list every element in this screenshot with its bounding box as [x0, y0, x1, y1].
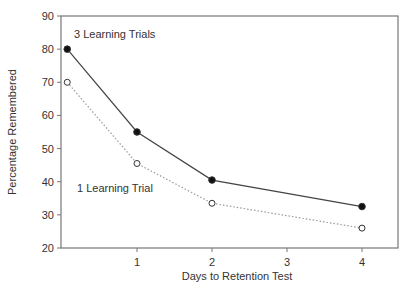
series-1: [64, 79, 365, 231]
filled-circle-marker: [209, 177, 216, 184]
open-circle-marker: [209, 200, 215, 206]
y-tick-label: 60: [42, 109, 54, 121]
y-axis-ticks: 2030405060708090: [42, 10, 61, 254]
y-tick-label: 90: [42, 10, 54, 22]
plot-border: [61, 16, 398, 248]
open-circle-marker: [134, 160, 140, 166]
y-tick-label: 40: [42, 176, 54, 188]
open-circle-marker: [359, 225, 365, 231]
data-series: [64, 46, 365, 231]
plot-frame: [61, 16, 398, 248]
filled-circle-marker: [359, 203, 366, 210]
open-circle-marker: [64, 79, 70, 85]
series-line: [67, 82, 362, 228]
annotation-1-learning-trial: 1 Learning Trial: [77, 182, 153, 194]
x-axis-label: Days to Retention Test: [182, 270, 292, 282]
x-tick-label: 3: [284, 256, 290, 268]
y-tick-label: 30: [42, 209, 54, 221]
line-chart: 2030405060708090 1234 Days to Retention …: [0, 0, 415, 296]
x-tick-label: 4: [359, 256, 365, 268]
y-tick-label: 70: [42, 76, 54, 88]
y-tick-label: 20: [42, 242, 54, 254]
x-axis-ticks: 1234: [134, 248, 365, 268]
filled-circle-marker: [64, 46, 71, 53]
filled-circle-marker: [134, 129, 141, 136]
y-tick-label: 50: [42, 143, 54, 155]
y-axis-label: Percentage Remembered: [6, 69, 18, 195]
x-tick-label: 2: [209, 256, 215, 268]
x-tick-label: 1: [134, 256, 140, 268]
annotation-3-learning-trials: 3 Learning Trials: [74, 28, 156, 40]
y-tick-label: 80: [42, 43, 54, 55]
